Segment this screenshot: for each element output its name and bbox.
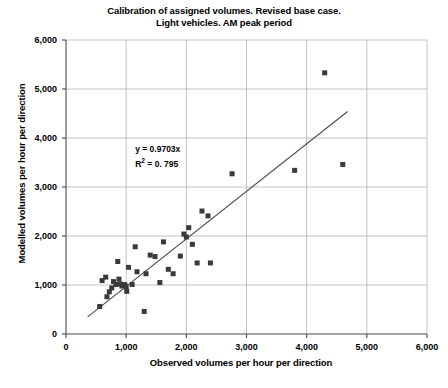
data-point-marker xyxy=(178,254,183,259)
data-point-marker xyxy=(292,168,297,173)
r-squared-value: = 0. 795 xyxy=(147,159,178,169)
trendline-annotation: y = 0.9703x R2 = 0. 795 xyxy=(135,144,180,170)
data-point-marker xyxy=(190,242,195,247)
x-tick-label: 4,000 xyxy=(295,342,318,352)
data-point-marker xyxy=(208,260,213,265)
y-tick-label: 0 xyxy=(14,329,57,339)
x-tick-label: 6,000 xyxy=(416,342,439,352)
trendline-r-squared: R2 = 0. 795 xyxy=(135,155,180,170)
data-point-marker xyxy=(161,239,166,244)
data-point-marker xyxy=(97,304,102,309)
data-point-marker xyxy=(124,289,129,294)
data-point-marker xyxy=(199,209,204,214)
data-point-marker xyxy=(186,225,191,230)
x-axis-title: Observed volumes per hour per direction xyxy=(46,357,436,368)
data-point-marker xyxy=(322,70,327,75)
trendline-equation: y = 0.9703x xyxy=(135,144,180,155)
data-point-marker xyxy=(157,280,162,285)
y-axis-title: Modelled volumes per hour per direction xyxy=(16,59,27,289)
x-tick-label: 1,000 xyxy=(115,342,138,352)
data-point-marker xyxy=(144,271,149,276)
x-tick-label: 2,000 xyxy=(175,342,198,352)
data-point-marker xyxy=(133,244,138,249)
data-point-marker xyxy=(184,234,189,239)
data-point-marker xyxy=(142,309,147,314)
data-point-marker xyxy=(130,282,135,287)
data-point-marker xyxy=(166,267,171,272)
data-point-marker xyxy=(124,284,129,289)
data-point-marker xyxy=(230,171,235,176)
gridlines xyxy=(66,40,427,334)
data-point-marker xyxy=(205,213,210,218)
x-tick-label: 3,000 xyxy=(235,342,258,352)
data-points xyxy=(97,70,345,314)
data-point-marker xyxy=(103,275,108,280)
scatter-chart: Calibration of assigned volumes. Revised… xyxy=(0,0,448,388)
data-point-marker xyxy=(104,294,109,299)
data-point-marker xyxy=(134,269,139,274)
plot-area xyxy=(0,0,448,388)
data-point-marker xyxy=(195,260,200,265)
data-point-marker xyxy=(171,271,176,276)
data-point-marker xyxy=(148,253,153,258)
data-point-marker xyxy=(126,265,131,270)
data-point-marker xyxy=(340,162,345,167)
data-point-marker xyxy=(115,259,120,264)
r-squared-exponent: 2 xyxy=(141,157,145,164)
x-tick-label: 0 xyxy=(63,342,68,352)
data-point-marker xyxy=(116,277,121,282)
x-tick-label: 5,000 xyxy=(356,342,379,352)
data-point-marker xyxy=(153,254,158,259)
y-tick-label: 6,000 xyxy=(14,35,57,45)
